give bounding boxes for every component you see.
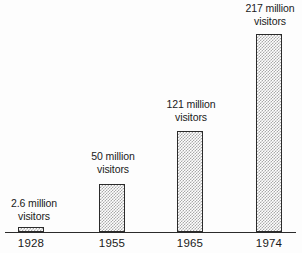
value-label-1974: 217 million visitors — [230, 2, 302, 28]
value-label-line1: 121 million — [151, 98, 231, 111]
x-tick-label-1928: 1928 — [0, 236, 71, 250]
value-label-line2: visitors — [73, 163, 153, 176]
value-label-line2: visitors — [0, 210, 74, 223]
value-label-1928: 2.6 million visitors — [0, 197, 74, 223]
value-label-line2: visitors — [230, 15, 302, 28]
value-label-1965: 121 million visitors — [151, 98, 231, 124]
value-label-line1: 2.6 million — [0, 197, 74, 210]
value-label-1955: 50 million visitors — [73, 150, 153, 176]
value-label-line1: 50 million — [73, 150, 153, 163]
bar-1955[interactable] — [99, 184, 125, 232]
bar-1965[interactable] — [177, 131, 203, 232]
plot-area: 2.6 million visitors 50 million visitors… — [0, 0, 302, 253]
bar-1974[interactable] — [256, 34, 282, 232]
value-label-line2: visitors — [151, 111, 231, 124]
x-tick-label-1955: 1955 — [72, 236, 152, 250]
x-axis-line — [5, 232, 296, 233]
x-tick-label-1965: 1965 — [150, 236, 230, 250]
x-tick-label-1974: 1974 — [229, 236, 302, 250]
value-label-line1: 217 million — [230, 2, 302, 15]
bar-chart: 2.6 million visitors 50 million visitors… — [0, 0, 302, 253]
